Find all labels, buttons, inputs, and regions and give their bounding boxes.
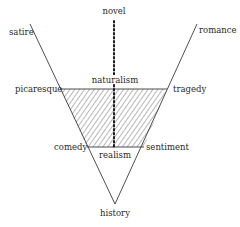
- label-romance: romance: [199, 25, 237, 35]
- label-sentiment: sentiment: [146, 142, 190, 152]
- label-tragedy: tragedy: [173, 84, 206, 94]
- label-realism: realism: [99, 150, 131, 160]
- label-novel: novel: [102, 6, 125, 16]
- label-naturalism: naturalism: [92, 75, 138, 85]
- label-history: history: [100, 208, 130, 218]
- label-comedy: comedy: [54, 142, 87, 152]
- genre-diagram: novel satire romance naturalism picaresq…: [0, 0, 240, 227]
- label-picaresque: picaresque: [15, 84, 62, 94]
- label-satire: satire: [9, 27, 34, 37]
